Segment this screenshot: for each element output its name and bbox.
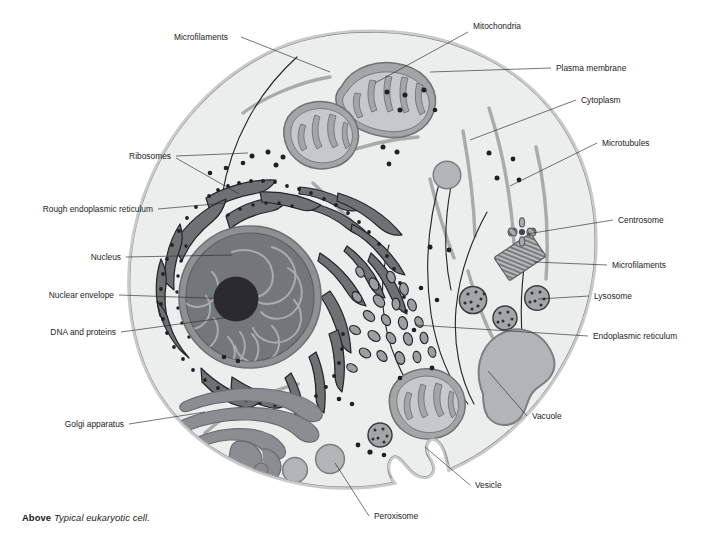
eukaryotic-cell-svg: Microfilaments Mitochondria Plasma membr… <box>0 0 722 550</box>
figure-caption: Above Typical eukaryotic cell. <box>22 512 150 523</box>
lysosome <box>525 286 550 311</box>
lysosome <box>493 306 517 330</box>
label-cytoplasm: Cytoplasm <box>581 95 621 105</box>
label-peroxisome: Peroxisome <box>374 511 419 521</box>
label-lysosome: Lysosome <box>594 291 632 301</box>
caption-kicker: Above <box>22 512 51 523</box>
label-ribosomes: Ribosomes <box>129 151 171 161</box>
vesicle-lower-left <box>283 458 308 483</box>
mitochondrion-upper-left <box>284 102 359 169</box>
label-microtubules: Microtubules <box>602 138 649 148</box>
label-nuclear-envelope: Nuclear envelope <box>49 290 115 300</box>
label-microfilaments-top: Microfilaments <box>174 32 228 42</box>
label-endoplasmic-reticulum: Endoplasmic reticulum <box>593 331 677 341</box>
label-microfilaments-right: Microfilaments <box>612 260 666 270</box>
label-golgi-apparatus: Golgi apparatus <box>65 419 124 429</box>
label-nucleus: Nucleus <box>91 252 121 262</box>
label-mitochondria: Mitochondria <box>473 21 521 31</box>
cell-diagram-figure: Microfilaments Mitochondria Plasma membr… <box>0 0 722 550</box>
label-vesicle: Vesicle <box>475 480 502 490</box>
caption-text: Typical eukaryotic cell. <box>54 512 150 523</box>
label-rough-er: Rough endoplasmic reticulum <box>43 204 153 214</box>
label-vacuole: Vacuole <box>532 411 562 421</box>
vesicle-peroxisome-target <box>316 445 345 474</box>
label-dna-and-proteins: DNA and proteins <box>50 327 116 337</box>
label-plasma-membrane: Plasma membrane <box>556 63 627 73</box>
peroxisome-speckled <box>368 423 392 447</box>
nucleolus <box>214 277 259 322</box>
label-centrosome: Centrosome <box>618 215 664 225</box>
cell-body <box>120 20 610 500</box>
vesicle-upper <box>433 161 461 189</box>
lysosome <box>459 286 486 313</box>
